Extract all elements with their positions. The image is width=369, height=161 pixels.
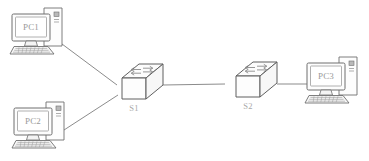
node-label-pc2: PC2 bbox=[25, 116, 41, 126]
switch-icon bbox=[236, 62, 277, 97]
node-label-pc3: PC3 bbox=[318, 71, 334, 81]
node-pc1[interactable]: PC1 bbox=[10, 8, 62, 54]
switch-icon bbox=[122, 64, 163, 99]
node-s2[interactable]: S2 bbox=[236, 62, 277, 111]
link-pc1-s1[interactable] bbox=[62, 44, 117, 85]
node-pc3[interactable]: PC3 bbox=[305, 57, 357, 103]
link-s1-s2[interactable] bbox=[163, 84, 225, 85]
link-pc2-s1[interactable] bbox=[64, 95, 118, 130]
link-layer bbox=[62, 44, 312, 130]
node-label-s2: S2 bbox=[243, 101, 252, 111]
network-diagram-canvas: PC1 PC2 PC3 S1 S2 bbox=[0, 0, 369, 161]
network-topology-diagram: PC1 PC2 PC3 S1 S2 bbox=[0, 0, 369, 161]
node-label-s1: S1 bbox=[129, 103, 138, 113]
node-pc2[interactable]: PC2 bbox=[12, 102, 64, 148]
node-label-pc1: PC1 bbox=[23, 22, 39, 32]
node-s1[interactable]: S1 bbox=[122, 64, 163, 113]
